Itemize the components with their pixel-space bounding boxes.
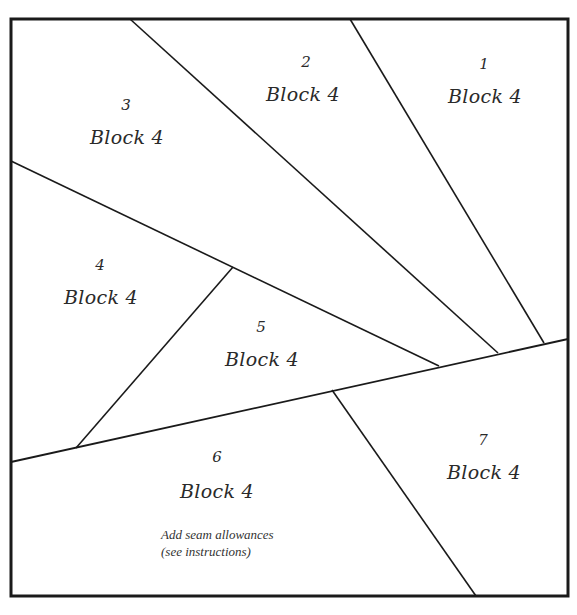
piece-4-number: 4 [95, 256, 105, 274]
piece-4-label: Block 4 [64, 286, 138, 308]
piece-5-label: Block 4 [225, 348, 299, 370]
note-line-1: Add seam allowances [161, 526, 274, 543]
piece-1-label: Block 4 [448, 85, 522, 107]
seam-line-a [130, 19, 498, 353]
piece-7-number: 7 [478, 431, 488, 449]
seam-line-f [332, 390, 476, 596]
piece-3-number: 3 [121, 96, 131, 114]
piece-1-number: 1 [479, 55, 489, 73]
piece-2-number: 2 [301, 53, 311, 71]
piece-6-label: Block 4 [180, 480, 254, 502]
piece-5-number: 5 [256, 318, 266, 336]
seam-line-b [350, 19, 544, 343]
piece-6-number: 6 [212, 448, 222, 466]
piece-2-label: Block 4 [266, 83, 340, 105]
note-line-2: (see instructions) [161, 543, 274, 560]
seam-line-c [11, 161, 439, 366]
piece-3-label: Block 4 [90, 126, 164, 148]
seam-allowance-note: Add seam allowances (see instructions) [161, 526, 274, 560]
piece-7-label: Block 4 [447, 461, 521, 483]
